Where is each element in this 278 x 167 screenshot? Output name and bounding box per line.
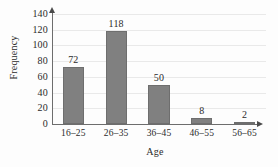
x-axis-tick-label: 46–55 <box>180 128 224 138</box>
y-axis-tick-label: 20 <box>22 103 48 113</box>
bar-chart-figure: 721185082 020406080100120140 Frequency 1… <box>0 0 278 167</box>
bar <box>148 85 169 124</box>
bar-slot: 50 <box>148 14 169 124</box>
x-axis-tick-label: 36–45 <box>137 128 181 138</box>
x-axis-right-arrow-icon <box>257 121 263 127</box>
y-axis-tick-label: 0 <box>22 119 48 129</box>
y-axis-line <box>52 12 53 124</box>
x-axis-tick-label: 26–35 <box>94 128 138 138</box>
plot-area: 721185082 <box>52 14 266 124</box>
bar-value-label: 72 <box>68 55 78 65</box>
x-axis-tick-label: 16–25 <box>51 128 95 138</box>
y-axis-tick-label: 100 <box>22 40 48 50</box>
y-axis-tick-label: 140 <box>22 9 48 19</box>
x-axis-tick-label: 56–65 <box>223 128 267 138</box>
bar-value-label: 8 <box>199 106 204 116</box>
bar-slot: 8 <box>191 14 212 124</box>
y-axis-tick-label: 60 <box>22 72 48 82</box>
bar <box>63 67 84 124</box>
x-axis-line <box>52 124 258 125</box>
bar-slot: 72 <box>63 14 84 124</box>
y-axis-tick-label: 120 <box>22 25 48 35</box>
bar-slot: 118 <box>106 14 127 124</box>
bar-value-label: 2 <box>242 110 247 120</box>
bar-value-label: 50 <box>154 73 164 83</box>
bar <box>106 31 127 124</box>
x-axis-title: Age <box>52 146 258 157</box>
y-axis-tick-label: 40 <box>22 88 48 98</box>
y-axis-up-arrow-icon <box>49 7 55 13</box>
bar-value-label: 118 <box>109 19 124 29</box>
y-axis-tick-labels: 020406080100120140 <box>18 0 48 167</box>
bar-slot: 2 <box>234 14 255 124</box>
y-axis-tick-label: 80 <box>22 56 48 66</box>
y-axis-title: Frequency <box>8 23 19 93</box>
